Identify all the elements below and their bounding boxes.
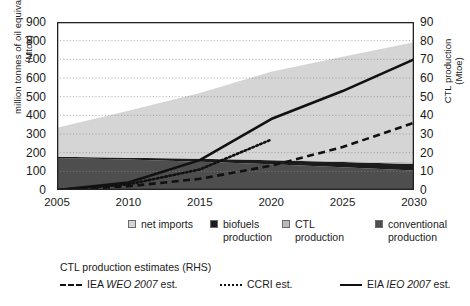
line-legend-item-solid: EIA IEO 2007 est. xyxy=(340,278,450,291)
x-tick-2010: 2010 xyxy=(104,196,152,208)
y-tick-left-300: 300 xyxy=(14,128,46,140)
x-tick-2005: 2005 xyxy=(33,196,81,208)
y-tick-right-90: 90 xyxy=(420,16,450,28)
line-legend-item-dotted: CCRI est. xyxy=(220,278,293,291)
y-tick-left-700: 700 xyxy=(14,53,46,65)
series-legend: net importsbiofuels productionCTL produc… xyxy=(30,218,450,252)
legend-swatch-icon xyxy=(210,220,218,228)
chart-svg xyxy=(57,22,414,190)
legend-item-label: biofuels production xyxy=(223,218,272,243)
x-tick-2030: 2030 xyxy=(390,196,438,208)
x-tick-2025: 2025 xyxy=(319,196,367,208)
legend-item-biofuels-production: biofuels production xyxy=(210,218,272,243)
legend-item-label: CTL production xyxy=(295,218,344,243)
legend-swatch-icon xyxy=(282,220,290,228)
line-style-key-icon xyxy=(220,284,242,286)
y-tick-right-10: 10 xyxy=(420,165,450,177)
legend-item-label: net imports xyxy=(141,218,193,231)
line-style-key-icon xyxy=(340,284,362,286)
y-tick-left-400: 400 xyxy=(14,109,46,121)
line-legend-item-label: EIA IEO 2007 est. xyxy=(367,278,450,291)
y-tick-left-100: 100 xyxy=(14,165,46,177)
chart-figure: million tonnes of oil equivalent (Mtoe) … xyxy=(0,0,470,306)
line-legend-item-label: IEA WEO 2007 est. xyxy=(87,278,177,291)
legend-swatch-icon xyxy=(375,220,383,228)
line-style-key-icon xyxy=(60,284,82,286)
y-tick-left-600: 600 xyxy=(14,72,46,84)
plot-area xyxy=(57,22,414,190)
legend-item-net-imports: net imports xyxy=(128,218,193,231)
y-tick-right-60: 60 xyxy=(420,72,450,84)
line-legend: CTL production estimates (RHS) IEA WEO 2… xyxy=(60,261,460,294)
x-tick-2020: 2020 xyxy=(247,196,295,208)
y-tick-right-0: 0 xyxy=(420,184,450,196)
legend-item-ctl-production: CTL production xyxy=(282,218,344,243)
x-tick-2015: 2015 xyxy=(176,196,224,208)
y-tick-left-900: 900 xyxy=(14,16,46,28)
y-tick-right-30: 30 xyxy=(420,128,450,140)
y-tick-left-500: 500 xyxy=(14,91,46,103)
line-legend-title: CTL production estimates (RHS) xyxy=(60,261,460,274)
y-tick-right-40: 40 xyxy=(420,109,450,121)
y-tick-left-200: 200 xyxy=(14,147,46,159)
line-legend-item-label: CCRI est. xyxy=(247,278,293,291)
y-tick-right-20: 20 xyxy=(420,147,450,159)
y-tick-right-50: 50 xyxy=(420,91,450,103)
line-legend-item-dashed: IEA WEO 2007 est. xyxy=(60,278,177,291)
legend-item-label: conventional production xyxy=(388,218,447,243)
y-tick-right-70: 70 xyxy=(420,53,450,65)
legend-item-conventional-production: conventional production xyxy=(375,218,447,243)
y-tick-left-800: 800 xyxy=(14,35,46,47)
legend-swatch-icon xyxy=(128,220,136,228)
y-tick-left-0: 0 xyxy=(14,184,46,196)
y-tick-right-80: 80 xyxy=(420,35,450,47)
